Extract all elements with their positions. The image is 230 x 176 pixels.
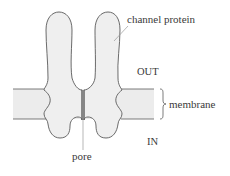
pore-label: pore [72, 150, 92, 162]
membrane-label: membrane [169, 98, 216, 110]
channel-protein-diagram: channel protein OUT membrane IN pore [0, 0, 230, 176]
channel-protein-left-subunit [44, 12, 82, 138]
channel-protein-right-subunit [84, 12, 122, 138]
channel-protein-label: channel protein [127, 13, 196, 25]
membrane-bilayer [13, 89, 154, 119]
membrane-brace [160, 89, 166, 119]
in-label: IN [147, 136, 158, 147]
out-label: OUT [137, 66, 159, 77]
membrane-band [13, 89, 154, 119]
